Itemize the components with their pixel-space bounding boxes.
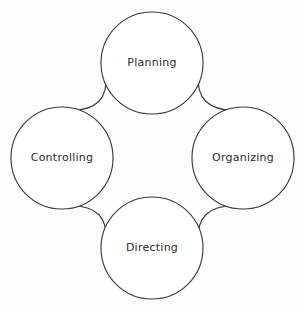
- node-directing[interactable]: Directing: [101, 197, 203, 299]
- cycle-diagram-canvas: Planning Organizing Directing Controllin…: [0, 0, 304, 312]
- node-planning-label: Planning: [127, 56, 176, 69]
- connector-controlling-to-planning: [71, 75, 106, 111]
- node-organizing[interactable]: Organizing: [192, 107, 294, 209]
- node-organizing-label: Organizing: [212, 151, 274, 164]
- node-directing-label: Directing: [126, 241, 178, 254]
- connector-directing-to-controlling: [71, 206, 106, 242]
- node-controlling[interactable]: Controlling: [11, 107, 113, 209]
- node-planning[interactable]: Planning: [101, 12, 203, 114]
- management-cycle-diagram: Planning Organizing Directing Controllin…: [0, 0, 304, 312]
- connector-planning-to-organizing: [198, 75, 234, 111]
- connector-organizing-to-directing: [198, 206, 234, 242]
- node-controlling-label: Controlling: [31, 151, 94, 164]
